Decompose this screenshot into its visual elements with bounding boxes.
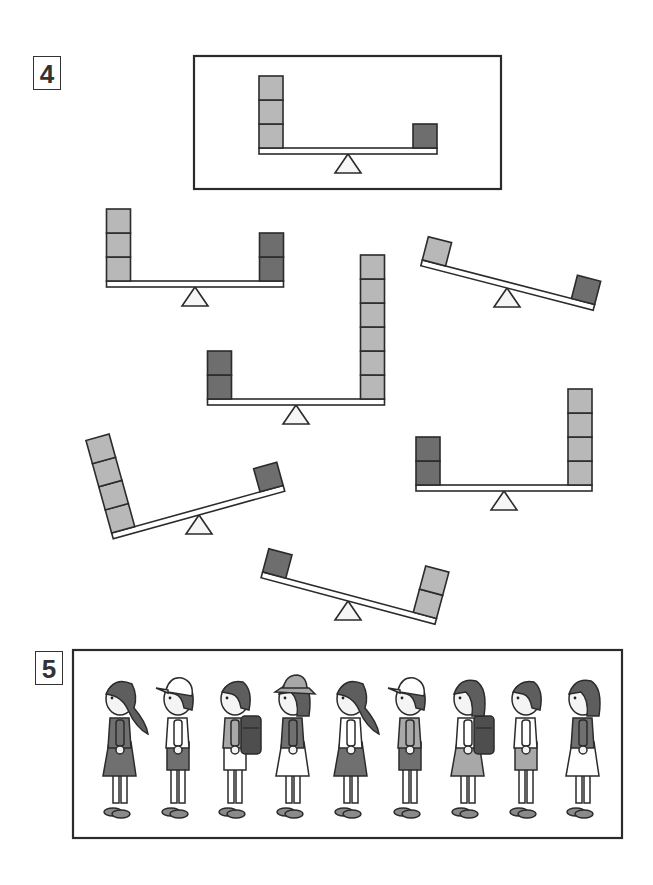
hand: [522, 746, 530, 754]
seesaw-e: [416, 389, 592, 510]
dark-weight-block: [260, 257, 284, 281]
dark-weight-block: [416, 461, 440, 485]
dark-weight-block: [208, 351, 232, 375]
fulcrum-triangle: [491, 491, 517, 510]
light-weight-block: [422, 237, 451, 266]
light-weight-block: [568, 461, 592, 485]
seesaw-beam: [208, 399, 385, 405]
child-8: [510, 681, 541, 818]
seesaw-beam: [107, 281, 284, 287]
hand: [289, 746, 297, 754]
seesaw-f: [261, 526, 449, 625]
light-weight-block: [259, 124, 283, 148]
child-5: [334, 682, 379, 818]
eye: [111, 697, 114, 700]
child-1: [103, 682, 148, 818]
light-weight-block: [107, 233, 131, 257]
child-9: [566, 680, 600, 818]
seesaw-b: [421, 237, 601, 311]
light-weight-block: [259, 100, 283, 124]
seesaw-group: [86, 76, 601, 624]
light-weight-block: [361, 351, 385, 375]
seesaw-beam: [416, 485, 592, 491]
dark-weight-block: [571, 275, 600, 304]
hand: [231, 746, 239, 754]
light-weight-block: [568, 389, 592, 413]
dark-weight-block: [413, 124, 437, 148]
light-weight-block: [361, 303, 385, 327]
dark-weight-block: [208, 375, 232, 399]
eye: [574, 697, 577, 700]
hand: [464, 746, 472, 754]
hand: [347, 746, 355, 754]
reference-seesaw: [259, 76, 437, 173]
light-weight-block: [420, 566, 449, 595]
eye: [169, 697, 172, 700]
backpack-icon: [474, 716, 494, 754]
light-weight-block: [361, 327, 385, 351]
hand: [116, 746, 124, 754]
light-weight-block: [259, 76, 283, 100]
light-weight-block: [361, 279, 385, 303]
child-2: [156, 678, 193, 818]
eye: [284, 697, 287, 700]
child-7: [451, 680, 494, 818]
eye: [226, 697, 229, 700]
child-6: [388, 678, 425, 818]
dark-weight-block: [416, 437, 440, 461]
light-weight-block: [361, 375, 385, 399]
dark-weight-block: [254, 462, 284, 492]
dark-weight-block: [260, 233, 284, 257]
light-weight-block: [568, 437, 592, 461]
fulcrum-triangle: [182, 287, 208, 306]
light-weight-block: [361, 255, 385, 279]
hand: [579, 746, 587, 754]
fulcrum-triangle: [335, 154, 361, 173]
seesaw-a: [107, 209, 284, 306]
eye: [459, 697, 462, 700]
child-3: [219, 681, 261, 818]
seesaw-d: [86, 393, 285, 539]
light-weight-block: [107, 257, 131, 281]
children-row: [103, 675, 600, 818]
dark-weight-block: [263, 549, 292, 578]
light-weight-block: [568, 413, 592, 437]
eye: [517, 697, 520, 700]
hand: [174, 746, 182, 754]
backpack-icon: [241, 716, 261, 754]
fulcrum-triangle: [283, 405, 309, 424]
child-4: [275, 675, 315, 818]
light-weight-block: [107, 209, 131, 233]
eye: [342, 697, 345, 700]
light-weight-block: [86, 434, 116, 464]
eye: [401, 697, 404, 700]
worksheet-canvas: [0, 0, 653, 885]
hand: [406, 746, 414, 754]
seesaw-beam: [259, 148, 437, 154]
